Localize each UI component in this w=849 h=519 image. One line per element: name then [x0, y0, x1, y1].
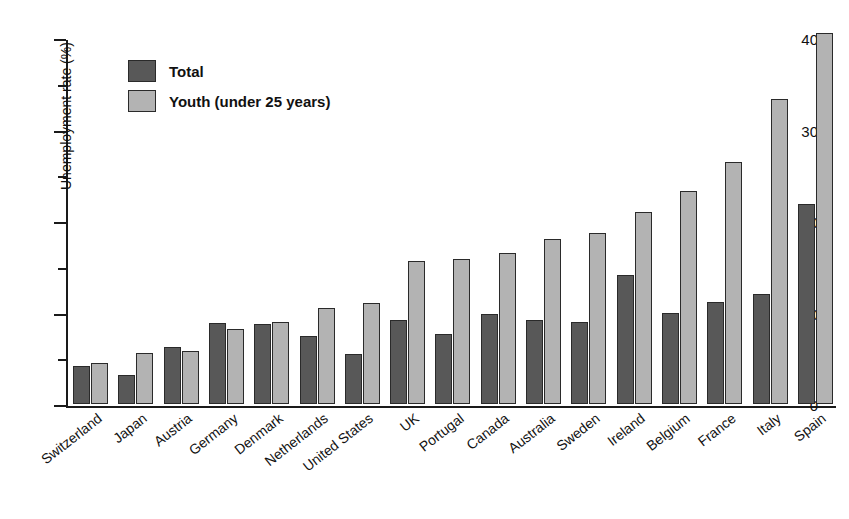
unemployment-bar-chart: Unemployment rate (%) 010203040 Switzerl… [0, 0, 849, 519]
y-tick-minor [58, 85, 66, 87]
bar-group [793, 38, 838, 404]
legend-item-total: Total [128, 56, 330, 86]
y-tick-major [54, 405, 66, 407]
bar-group [747, 38, 792, 404]
bar-youth [635, 212, 652, 404]
bar-group [612, 38, 657, 404]
bar-youth [91, 363, 108, 404]
bar-youth [680, 191, 697, 404]
bar-youth [544, 239, 561, 404]
bar-youth [816, 33, 833, 404]
bar-group [476, 38, 521, 404]
y-tick-major [54, 39, 66, 41]
bar-group [566, 38, 611, 404]
bar-total [73, 366, 90, 404]
cropped-title-sliver [150, 0, 710, 5]
bar-youth [771, 99, 788, 404]
y-tick-minor [58, 359, 66, 361]
bar-youth [227, 329, 244, 404]
y-tick-major [54, 314, 66, 316]
y-tick-major [54, 222, 66, 224]
y-tick-major [54, 131, 66, 133]
legend-item-youth: Youth (under 25 years) [128, 86, 330, 116]
legend-swatch-youth [128, 90, 156, 112]
bar-group [430, 38, 475, 404]
bar-group [521, 38, 566, 404]
bar-group [385, 38, 430, 404]
x-axis-line [66, 406, 836, 408]
legend-swatch-total [128, 60, 156, 82]
legend-label-total: Total [169, 63, 204, 80]
bar-total [798, 204, 815, 404]
y-tick-minor [58, 176, 66, 178]
bar-group [657, 38, 702, 404]
bar-youth [725, 162, 742, 404]
legend-label-youth: Youth (under 25 years) [169, 93, 330, 110]
bar-group [68, 38, 113, 404]
x-axis-labels: SwitzerlandJapanAustriaGermanyDenmarkNet… [66, 410, 836, 519]
chart-legend: Total Youth (under 25 years) [128, 56, 330, 116]
bar-group [340, 38, 385, 404]
bar-group [702, 38, 747, 404]
y-tick-minor [58, 268, 66, 270]
bar-youth [182, 351, 199, 404]
bar-youth [453, 259, 470, 404]
